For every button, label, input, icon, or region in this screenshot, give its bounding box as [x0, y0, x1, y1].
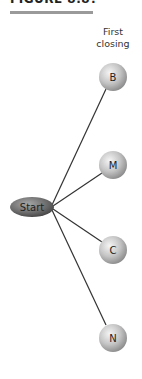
root-node-label: Start — [20, 202, 45, 213]
edge-start-m — [53, 173, 102, 206]
node-n: N — [99, 324, 127, 352]
node-c-label: C — [110, 245, 117, 256]
node-n-label: N — [109, 333, 116, 344]
node-b-label: B — [110, 72, 117, 83]
edge-start-b — [52, 89, 106, 205]
node-b: B — [99, 63, 127, 91]
edge-start-n — [52, 210, 106, 325]
edge-start-c — [53, 209, 102, 242]
root-node-start: Start — [10, 197, 54, 217]
edges — [52, 89, 106, 325]
node-m: M — [99, 151, 127, 179]
node-m-label: M — [109, 160, 118, 171]
node-c: C — [99, 236, 127, 264]
tree-diagram: Start B M C N — [0, 0, 142, 379]
